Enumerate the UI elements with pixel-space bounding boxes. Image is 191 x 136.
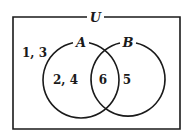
universe-rectangle [13, 17, 180, 129]
set-a-label: A [74, 35, 86, 50]
set-b-only-elements: 5 [123, 73, 131, 87]
outside-elements: 1, 3 [22, 46, 47, 60]
set-a-only-elements: 2, 4 [53, 73, 78, 87]
universe-label: U [90, 10, 102, 25]
set-b-label: B [122, 35, 134, 50]
intersection-elements: 6 [99, 73, 107, 87]
venn-diagram: U A B 1, 3 2, 4 6 5 [0, 0, 191, 136]
